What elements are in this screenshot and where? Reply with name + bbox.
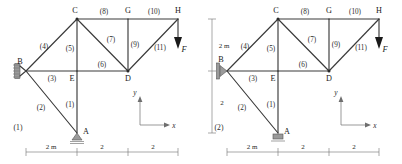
member-label-1: (1) xyxy=(66,101,75,109)
support-A-1 xyxy=(70,133,84,144)
member-label-8: (8) xyxy=(100,8,109,16)
truss-diagram-2: 2 m 2 xyxy=(200,0,402,164)
vdim-label-lower: 2 xyxy=(220,99,224,107)
support-B-1-arrowhead xyxy=(20,66,26,76)
node-label-D: D xyxy=(125,74,131,83)
node-label-A-2: A xyxy=(284,127,290,136)
axes-2 xyxy=(339,96,371,127)
member-label-4: (4) xyxy=(40,43,49,51)
load-label-F-2: F xyxy=(381,45,388,54)
node-label-B: B xyxy=(17,57,23,66)
member-label-3-2: (3) xyxy=(249,75,258,83)
member-label-7: (7) xyxy=(107,36,116,44)
joint-C-2 xyxy=(277,18,280,21)
joint-C xyxy=(76,18,79,21)
member-label-2: (2) xyxy=(37,104,46,112)
member-label-5: (5) xyxy=(66,45,75,53)
node-label-H: H xyxy=(175,6,181,15)
axes-1 xyxy=(138,96,170,127)
dim-label-span-3-2: 2 xyxy=(352,143,356,151)
figure-container: B A E C D G H (1) (2) (3) (4) (5) (6) (7… xyxy=(0,0,402,164)
joint-D xyxy=(127,70,130,73)
dim-label-span-1: 2 m xyxy=(46,143,57,151)
truss-panel-2: 2 m 2 xyxy=(200,0,402,164)
support-B-2-triangle xyxy=(220,66,227,77)
member-label-10: (10) xyxy=(148,8,161,16)
vdim-label-upper: 2 m xyxy=(219,42,230,50)
member-label-11: (11) xyxy=(154,44,166,52)
member-label-8-2: (8) xyxy=(301,8,310,16)
member-label-5-2: (5) xyxy=(267,45,276,53)
support-A-1-triangle xyxy=(72,133,82,140)
figure-number-2: (2) xyxy=(215,123,224,132)
member-label-6: (6) xyxy=(98,61,107,69)
member-label-1-2: (1) xyxy=(267,101,276,109)
member-label-2-2: (2) xyxy=(238,104,247,112)
dim-label-span-2: 2 xyxy=(100,143,104,151)
node-label-C: C xyxy=(72,6,78,15)
member-label-3: (3) xyxy=(48,75,57,83)
node-label-B-2: B xyxy=(218,55,224,64)
member-label-11-2: (11) xyxy=(355,44,367,52)
joint-D-2 xyxy=(328,70,331,73)
truss-diagram-1: B A E C D G H (1) (2) (3) (4) (5) (6) (7… xyxy=(0,0,201,164)
truss-panel-1: B A E C D G H (1) (2) (3) (4) (5) (6) (7… xyxy=(0,0,201,164)
support-A-2 xyxy=(271,134,285,141)
axes-2-x-head xyxy=(365,123,371,128)
axes-1-x-head xyxy=(164,123,170,128)
member-label-7-2: (7) xyxy=(308,36,317,44)
node-label-E-2: E xyxy=(270,74,275,83)
node-label-H-2: H xyxy=(376,6,382,15)
axis-label-x: x xyxy=(171,121,176,130)
axis-label-y-2: y xyxy=(333,88,338,97)
axes-2-y-head xyxy=(339,96,344,102)
support-B-2 xyxy=(217,63,228,79)
node-label-C-2: C xyxy=(273,6,279,15)
node-label-E: E xyxy=(69,74,74,83)
node-label-D-2: D xyxy=(326,74,332,83)
member-label-6-2: (6) xyxy=(299,61,308,69)
axis-label-y: y xyxy=(132,88,137,97)
member-label-9-2: (9) xyxy=(332,41,341,49)
member-label-4-2: (4) xyxy=(241,43,250,51)
dim-label-span-2-2: 2 xyxy=(301,143,305,151)
load-label-F: F xyxy=(180,45,187,54)
dim-label-span-1-2: 2 m xyxy=(247,143,258,151)
node-label-G: G xyxy=(125,6,131,15)
member-label-10-2: (10) xyxy=(349,8,362,16)
axes-1-y-head xyxy=(138,96,143,102)
support-B-2-wall xyxy=(217,63,220,79)
node-label-G-2: G xyxy=(326,6,332,15)
axis-label-x-2: x xyxy=(372,121,377,130)
dim-label-span-3: 2 xyxy=(151,143,155,151)
node-label-A: A xyxy=(83,127,89,136)
support-A-2-block xyxy=(273,134,283,139)
figure-number-1: (1) xyxy=(14,123,23,132)
member-label-9: (9) xyxy=(131,41,140,49)
